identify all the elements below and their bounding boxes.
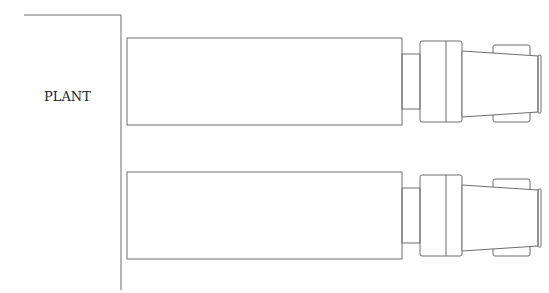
plant-layout-diagram: PLANT (0, 0, 549, 293)
plant-boundary (24, 15, 121, 290)
plant-label: PLANT (44, 89, 91, 104)
motor-body (127, 38, 402, 125)
end-cap (538, 189, 541, 247)
motor-body (127, 172, 402, 259)
shaft (402, 54, 420, 109)
end-cap (538, 55, 541, 113)
tapered-housing (462, 51, 538, 117)
tapered-housing (462, 185, 538, 251)
unit-upper (127, 38, 541, 125)
coupling (420, 175, 462, 256)
coupling (420, 41, 462, 122)
shaft (402, 188, 420, 243)
unit-lower (127, 172, 541, 259)
